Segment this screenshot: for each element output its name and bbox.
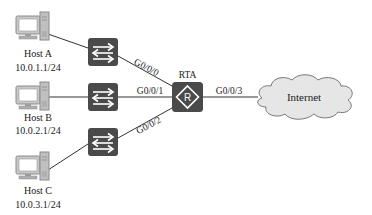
switch-a-icon[interactable]: [88, 38, 118, 66]
link-host-a-switch: [48, 34, 88, 48]
switch-b-icon[interactable]: [88, 83, 118, 111]
interface-label-g0-0-2: G0/0/2: [135, 115, 163, 136]
host-c-ip: 10.0.3.1/24: [15, 199, 60, 210]
interface-label-g0-0-1: G0/0/1: [137, 86, 164, 96]
links: [48, 34, 258, 170]
router-symbol: R: [184, 92, 191, 103]
router-rta[interactable]: R RTA: [172, 70, 203, 112]
host-c-name: Host C: [24, 185, 52, 196]
host-a[interactable]: Host A 10.0.1.1/24: [15, 12, 60, 73]
router-name: RTA: [179, 70, 197, 80]
internet-cloud[interactable]: Internet: [258, 75, 352, 120]
host-b-name: Host B: [24, 112, 52, 123]
internet-label: Internet: [287, 91, 321, 103]
interface-label-g0-0-3: G0/0/3: [216, 86, 243, 96]
host-a-ip: 10.0.1.1/24: [15, 62, 60, 73]
pc-icon: [16, 152, 49, 180]
host-b[interactable]: Host B 10.0.2.1/24: [15, 82, 60, 136]
network-topology-diagram: Host A 10.0.1.1/24 Host B 10.0.2.1/24 Ho…: [0, 0, 372, 215]
host-c[interactable]: Host C 10.0.3.1/24: [15, 152, 60, 210]
host-b-ip: 10.0.2.1/24: [15, 125, 60, 136]
interface-label-g0-0-0: G0/0/0: [132, 57, 160, 78]
host-a-name: Host A: [24, 48, 53, 59]
pc-icon: [16, 82, 49, 110]
switch-c-icon[interactable]: [88, 128, 118, 156]
pc-icon: [16, 12, 49, 40]
link-host-c-switch: [48, 144, 88, 170]
